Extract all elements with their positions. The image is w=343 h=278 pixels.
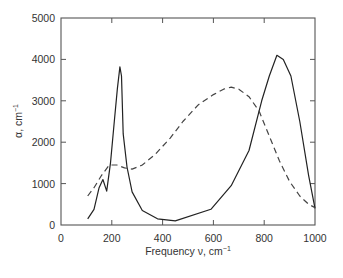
y-tick-label: 2000	[32, 136, 56, 148]
y-tick-label: 3000	[32, 95, 56, 107]
y-tick-label: 5000	[32, 12, 56, 24]
x-axis-label: Frequency ν, cm−1	[145, 245, 231, 257]
x-tick-label: 0	[58, 232, 64, 244]
y-tick-label: 0	[49, 219, 55, 231]
y-tick-label: 4000	[32, 53, 56, 65]
x-tick-label: 800	[255, 232, 273, 244]
y-axis-label: α, cm−1	[12, 104, 24, 138]
y-tick-label: 1000	[32, 178, 56, 190]
tick-labels: 02004006008001000010002000300040005000	[32, 12, 327, 244]
x-tick-label: 200	[103, 232, 121, 244]
chart: 02004006008001000010002000300040005000 F…	[0, 0, 343, 278]
data-series	[88, 55, 315, 221]
series-solid-line	[88, 55, 315, 221]
x-tick-label: 400	[154, 232, 172, 244]
plot-frame	[61, 18, 315, 225]
x-tick-label: 1000	[303, 232, 327, 244]
x-tick-label: 600	[205, 232, 223, 244]
axis-ticks	[61, 18, 315, 225]
plot-border	[61, 18, 315, 225]
